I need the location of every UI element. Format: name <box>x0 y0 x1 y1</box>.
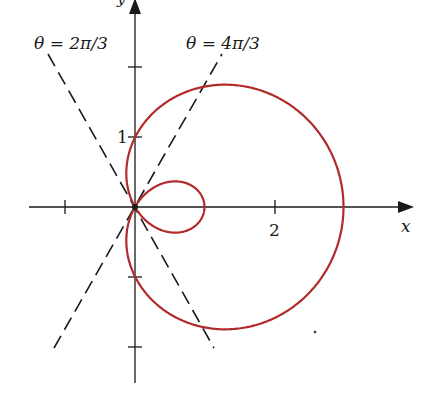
x-axis-label: x <box>401 216 411 236</box>
x-axis-arrow-icon <box>398 201 414 213</box>
scan-speck <box>314 331 317 334</box>
polar-plot: x y 2 1 θ = 2π/3 θ = 4π/3 <box>0 0 428 393</box>
y-axis-arrow-icon <box>129 0 141 14</box>
annotation-theta-2pi3: θ = 2π/3 <box>34 33 108 53</box>
origin-point <box>132 204 138 210</box>
y-axis-label: y <box>116 0 126 8</box>
y-tick-label-1: 1 <box>117 127 128 147</box>
annotation-theta-4pi3: θ = 4π/3 <box>186 33 260 53</box>
x-tick-label-2: 2 <box>269 220 280 240</box>
